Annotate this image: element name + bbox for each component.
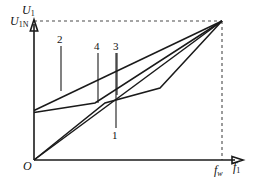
y-axis-label-rated-voltage-sub: 1N (19, 20, 29, 29)
x-axis-label-f1: f1 (233, 161, 240, 173)
figure-canvas (0, 0, 255, 187)
y-axis-label-u1-sub: 1 (31, 9, 35, 18)
y-axis-label-rated-voltage: U1N (10, 15, 28, 27)
curve-label-3: 3 (113, 41, 119, 52)
x-axis-label-rated-frequency: fw (214, 164, 223, 176)
curve-label-1: 1 (112, 130, 118, 141)
origin-label: O (23, 160, 32, 172)
x-axis-label-f1-sub: 1 (236, 166, 240, 175)
y-axis-label-rated-voltage-text: U (10, 14, 19, 28)
curve-label-2: 2 (57, 34, 63, 45)
x-axis-label-rated-frequency-sub: w (217, 169, 222, 178)
curve-label-4: 4 (94, 41, 100, 52)
voltage-frequency-characteristic-figure: U1 U1N fw f1 O 1 2 3 4 (0, 0, 255, 187)
